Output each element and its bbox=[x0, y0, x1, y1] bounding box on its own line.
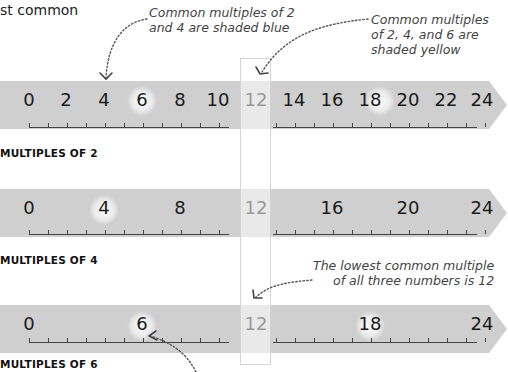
tick-mark bbox=[48, 123, 49, 127]
tick-mark bbox=[86, 123, 87, 127]
tick-mark bbox=[219, 123, 220, 127]
tick-mark bbox=[48, 230, 49, 234]
tick-mark bbox=[428, 123, 429, 127]
tick-mark bbox=[314, 338, 315, 342]
tick-mark bbox=[390, 123, 391, 127]
tick-mark bbox=[181, 123, 182, 127]
tick-mark bbox=[276, 338, 277, 342]
tick-mark bbox=[276, 230, 277, 234]
tick-mark bbox=[428, 230, 429, 234]
tick-mark bbox=[200, 230, 201, 234]
tick-mark bbox=[162, 230, 163, 234]
tick-mark bbox=[447, 230, 448, 234]
tick-mark bbox=[390, 230, 391, 234]
tick-mark bbox=[447, 338, 448, 342]
tick-mark bbox=[466, 123, 467, 127]
tick-mark bbox=[390, 338, 391, 342]
tick-mark bbox=[352, 338, 353, 342]
tick-mark bbox=[105, 123, 106, 127]
tick-mark bbox=[143, 338, 144, 342]
tick-mark bbox=[352, 123, 353, 127]
tick-mark bbox=[162, 123, 163, 127]
tick-mark bbox=[409, 123, 410, 127]
tick-mark bbox=[219, 338, 220, 342]
tick-mark bbox=[200, 123, 201, 127]
leader-arrows bbox=[0, 0, 508, 372]
tick-mark bbox=[105, 338, 106, 342]
tick-mark bbox=[143, 230, 144, 234]
tick-mark bbox=[314, 123, 315, 127]
tick-mark bbox=[124, 230, 125, 234]
tick-mark bbox=[466, 230, 467, 234]
tick-mark bbox=[48, 338, 49, 342]
tick-mark bbox=[466, 338, 467, 342]
arrow-to-4-icon bbox=[106, 19, 147, 78]
tick-mark bbox=[352, 230, 353, 234]
tick-mark bbox=[428, 338, 429, 342]
tick-mark bbox=[181, 230, 182, 234]
tick-mark bbox=[29, 338, 30, 342]
tick-mark bbox=[105, 230, 106, 234]
tick-mark bbox=[200, 338, 201, 342]
tick-mark bbox=[181, 338, 182, 342]
tick-mark bbox=[371, 123, 372, 127]
tick-mark bbox=[333, 338, 334, 342]
arrow-to-12-icon bbox=[262, 19, 368, 72]
tick-mark bbox=[409, 338, 410, 342]
tick-mark bbox=[219, 230, 220, 234]
tick-mark bbox=[295, 230, 296, 234]
tick-mark bbox=[295, 338, 296, 342]
tick-mark bbox=[447, 123, 448, 127]
tick-mark bbox=[124, 338, 125, 342]
tick-mark bbox=[333, 123, 334, 127]
tick-mark bbox=[124, 123, 125, 127]
tick-mark bbox=[29, 123, 30, 127]
tick-mark bbox=[67, 338, 68, 342]
tick-mark bbox=[314, 230, 315, 234]
tick-mark bbox=[276, 123, 277, 127]
tick-mark bbox=[143, 123, 144, 127]
tick-mark bbox=[485, 338, 486, 342]
tick-mark bbox=[162, 338, 163, 342]
arrow-to-6-icon bbox=[150, 336, 196, 372]
tick-mark bbox=[485, 230, 486, 234]
tick-mark bbox=[371, 338, 372, 342]
tick-mark bbox=[29, 230, 30, 234]
tick-mark bbox=[333, 230, 334, 234]
tick-mark bbox=[371, 230, 372, 234]
tick-mark bbox=[67, 123, 68, 127]
tick-mark bbox=[67, 230, 68, 234]
tick-mark bbox=[86, 230, 87, 234]
tick-mark bbox=[485, 123, 486, 127]
tick-mark bbox=[86, 338, 87, 342]
tick-mark bbox=[295, 123, 296, 127]
tick-mark bbox=[409, 230, 410, 234]
arrow-to-lcm-12-icon bbox=[256, 280, 312, 297]
